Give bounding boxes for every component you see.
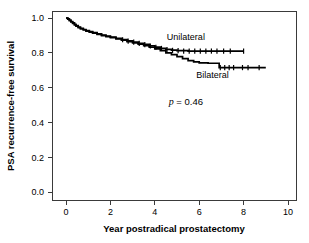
y-tick-label: 0.2 <box>31 153 44 163</box>
y-tick-label: 0.0 <box>31 187 44 197</box>
x-axis-title: Year postradical prostatectomy <box>103 223 245 234</box>
x-tick-label: 6 <box>197 207 202 217</box>
kaplan-meier-figure: 0.00.20.40.60.81.0 0246810 Unilateral Bi… <box>0 0 309 243</box>
x-tick-label: 0 <box>63 207 68 217</box>
survival-curve-unilateral <box>66 18 244 51</box>
survival-curve-bilateral <box>66 18 266 68</box>
y-tick-label: 0.6 <box>31 83 44 93</box>
x-axis-ticks: 0246810 <box>63 200 293 217</box>
y-tick-label: 1.0 <box>31 13 44 23</box>
y-axis-title: PSA recurrence-free survival <box>5 41 16 171</box>
x-tick-label: 8 <box>241 207 246 217</box>
y-tick-label: 0.8 <box>31 48 44 58</box>
series-group <box>66 18 266 70</box>
y-tick-label: 0.4 <box>31 118 44 128</box>
series-label-bilateral: Bilateral <box>196 70 229 80</box>
x-tick-label: 10 <box>283 207 293 217</box>
survival-chart-canvas: 0.00.20.40.60.81.0 0246810 Unilateral Bi… <box>0 0 309 243</box>
y-axis-ticks: 0.00.20.40.60.81.0 <box>31 13 52 197</box>
x-tick-label: 4 <box>152 207 157 217</box>
series-label-unilateral: Unilateral <box>167 32 205 42</box>
x-tick-label: 2 <box>108 207 113 217</box>
p-value-annotation: p = 0.46 <box>168 96 203 107</box>
